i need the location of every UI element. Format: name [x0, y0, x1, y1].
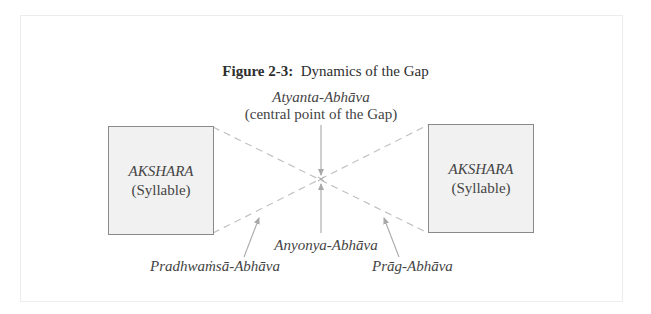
akshara-label: AKSHARA — [449, 160, 514, 179]
atyanta-abhava-label: Atyanta-Abhāva — [0, 89, 642, 106]
prag-abhava-label: Prāg-Abhāva — [372, 258, 482, 275]
akshara-box-left: AKSHARA (Syllable) — [108, 126, 214, 235]
gap-diagram — [0, 0, 651, 314]
central-point-description: (central point of the Gap) — [0, 106, 642, 123]
akshara-label: AKSHARA — [129, 162, 194, 181]
pradhwamsa-abhava-label: Pradhwaṁsā-Abhāva — [150, 258, 298, 275]
syllable-label: (Syllable) — [451, 179, 510, 198]
anyonya-abhava-label: Anyonya-Abhāva — [266, 237, 386, 254]
akshara-box-right: AKSHARA (Syllable) — [428, 124, 534, 233]
syllable-label: (Syllable) — [131, 181, 190, 200]
arrow-prag — [384, 218, 399, 257]
arrow-pradhwamsa — [244, 218, 259, 257]
